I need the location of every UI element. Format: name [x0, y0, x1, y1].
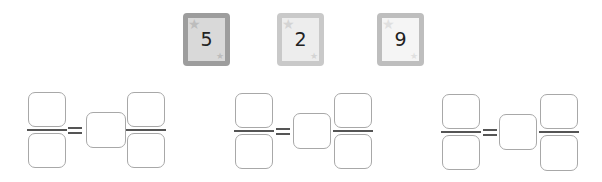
middle-slot[interactable] — [499, 114, 537, 150]
left-denominator-slot[interactable] — [442, 135, 480, 170]
right-denominator-slot[interactable] — [334, 134, 372, 169]
right-denominator-slot[interactable] — [540, 135, 578, 171]
equals-sign — [276, 128, 290, 135]
right-numerator-slot[interactable] — [334, 93, 372, 128]
right-denominator-slot[interactable] — [127, 133, 165, 168]
right-numerator-slot[interactable] — [127, 92, 165, 127]
star-icon: ★ — [282, 17, 295, 31]
number-card-2[interactable]: ★ 2 ★ — [277, 13, 324, 66]
fraction-bar — [539, 131, 579, 133]
star-icon: ★ — [188, 17, 201, 31]
left-denominator-slot[interactable] — [28, 133, 66, 168]
equals-sign — [68, 127, 82, 134]
fraction-bar — [234, 130, 274, 132]
right-numerator-slot[interactable] — [540, 94, 578, 129]
fraction-bar — [126, 129, 166, 131]
star-icon: ★ — [410, 52, 418, 61]
fraction-bar — [333, 130, 373, 132]
number-card-9[interactable]: ★ 9 ★ — [377, 13, 424, 66]
left-numerator-slot[interactable] — [28, 92, 66, 127]
fraction-bar — [27, 129, 67, 131]
card-value: 2 — [294, 30, 306, 49]
number-card-5[interactable]: ★ 5 ★ — [183, 13, 230, 66]
left-numerator-slot[interactable] — [442, 94, 480, 129]
fraction-bar — [441, 131, 481, 133]
star-icon: ★ — [382, 17, 395, 31]
left-denominator-slot[interactable] — [235, 134, 273, 169]
left-numerator-slot[interactable] — [235, 93, 273, 128]
equals-sign — [483, 129, 497, 136]
card-value: 9 — [394, 30, 406, 49]
middle-slot[interactable] — [293, 113, 331, 149]
middle-slot[interactable] — [86, 112, 126, 148]
star-icon: ★ — [216, 52, 224, 61]
card-value: 5 — [200, 30, 212, 49]
star-icon: ★ — [310, 52, 318, 61]
